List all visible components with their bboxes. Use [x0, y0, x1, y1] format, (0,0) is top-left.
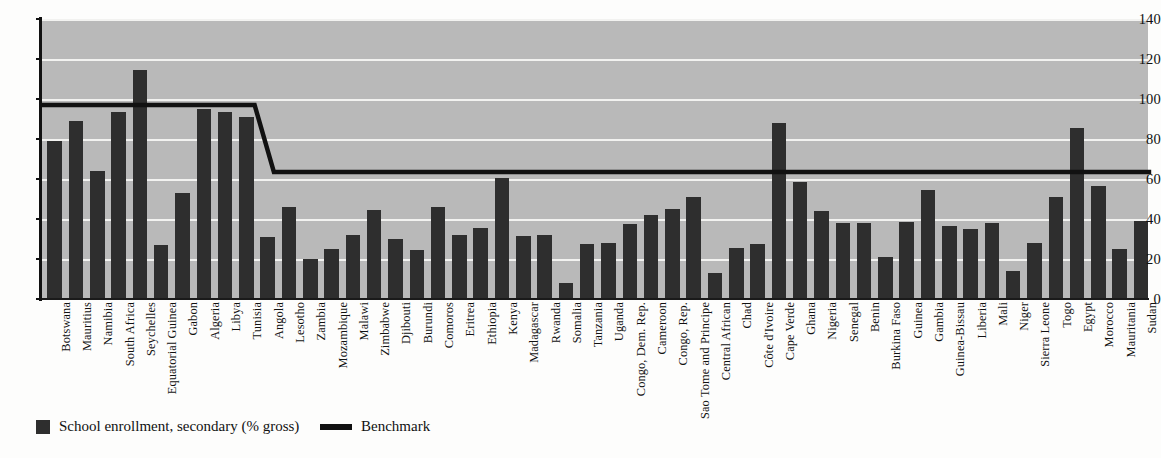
chart-legend: School enrollment, secondary (% gross) B… — [0, 414, 1161, 444]
x-tick-label: Ethiopia — [486, 302, 498, 345]
x-tick-label: Gambia — [933, 302, 945, 342]
x-tick-label: Libya — [230, 302, 242, 331]
x-tick-label: Kenya — [507, 302, 519, 335]
x-tick-label: Niger — [1018, 302, 1030, 331]
x-tick-label: Namibia — [102, 302, 114, 345]
y-tick-label: 140 — [1127, 12, 1161, 27]
y-tick-mark — [36, 98, 42, 100]
y-tick-label: 60 — [1127, 172, 1161, 187]
y-tick-mark — [36, 218, 42, 220]
x-tick-label: Senegal — [848, 302, 860, 342]
legend-item-series: School enrollment, secondary (% gross) — [36, 419, 299, 434]
x-tick-label: Guinea — [912, 302, 924, 338]
legend-line-swatch-icon — [320, 424, 352, 430]
x-axis-labels: BotswanaMauritiusNamibiaSouth AfricaSeyc… — [41, 302, 1148, 407]
x-tick-label: Cape Verde — [784, 302, 796, 360]
x-tick-label: Côte d'Ivoire — [763, 302, 775, 368]
x-tick-label: Gabon — [187, 302, 199, 336]
y-tick-mark — [36, 18, 42, 20]
x-tick-label: Algeria — [209, 302, 221, 340]
x-tick-label: Burundi — [422, 302, 434, 343]
x-tick-label: Sierra Leone — [1039, 302, 1051, 367]
x-tick-label: Congo, Rep. — [677, 302, 689, 365]
x-tick-label: Central African — [720, 302, 732, 380]
y-tick-label: 120 — [1127, 52, 1161, 67]
legend-label-benchmark: Benchmark — [361, 419, 430, 434]
y-tick-mark — [36, 138, 42, 140]
x-tick-label: Egypt — [1082, 302, 1094, 332]
x-tick-label: Mauritania — [1125, 302, 1137, 357]
y-tick-label: 20 — [1127, 252, 1161, 267]
x-tick-label: Chad — [741, 302, 753, 329]
x-tick-label: Mali — [997, 302, 1009, 326]
benchmark-polyline — [41, 105, 1151, 172]
x-tick-label: Equatorial Guinea — [166, 302, 178, 394]
x-tick-label: Benin — [869, 302, 881, 332]
x-axis-line — [39, 298, 1149, 300]
legend-label-enrollment: School enrollment, secondary (% gross) — [59, 419, 299, 434]
x-tick-label: Burkina Faso — [890, 302, 902, 370]
benchmark-line — [41, 19, 1148, 299]
x-tick-label: Zimbabwe — [379, 302, 391, 356]
x-tick-label: Ghana — [805, 302, 817, 335]
x-tick-label: Zambia — [315, 302, 327, 340]
x-tick-label: Guinea-Bissau — [954, 302, 966, 376]
y-tick-mark — [36, 258, 42, 260]
x-tick-label: South Africa — [124, 302, 136, 366]
y-tick-label: 80 — [1127, 132, 1161, 147]
x-tick-label: Mauritius — [81, 302, 93, 351]
legend-item-benchmark: Benchmark — [320, 419, 430, 434]
legend-bar-swatch-icon — [36, 420, 50, 434]
x-tick-label: Comoros — [443, 302, 455, 348]
y-tick-mark — [36, 58, 42, 60]
chart-container: 140120100806040200 BotswanaMauritiusNami… — [0, 0, 1161, 458]
x-tick-label: Liberia — [976, 302, 988, 338]
y-tick-mark — [36, 178, 42, 180]
x-tick-label: Malawi — [358, 302, 370, 340]
x-tick-label: Angola — [273, 302, 285, 339]
y-tick-mark — [36, 298, 42, 300]
x-tick-label: Lesotho — [294, 302, 306, 343]
x-tick-label: Seychelles — [145, 302, 157, 356]
x-tick-label: Tunisia — [251, 302, 263, 339]
y-tick-label: 100 — [1127, 92, 1161, 107]
x-tick-label: Sao Tome and Principe — [699, 302, 711, 419]
x-tick-label: Mozambique — [337, 302, 349, 368]
x-tick-label: Uganda — [613, 302, 625, 341]
x-tick-label: Eritrea — [464, 302, 476, 336]
x-tick-label: Togo — [1061, 302, 1073, 328]
x-tick-label: Botswana — [60, 302, 72, 352]
x-tick-label: Tanzania — [592, 302, 604, 347]
x-tick-label: Rwanda — [550, 302, 562, 343]
x-tick-label: Congo, Dem. Rep. — [635, 302, 647, 396]
x-tick-label: Nigeria — [826, 302, 838, 340]
x-tick-label: Djibouti — [400, 302, 412, 344]
x-tick-label: Madagascar — [528, 302, 540, 363]
x-tick-label: Morocco — [1103, 302, 1115, 347]
x-tick-label: Sudan — [1146, 302, 1158, 333]
x-tick-label: Cameroon — [656, 302, 668, 354]
x-tick-label: Somalia — [571, 302, 583, 343]
y-tick-label: 40 — [1127, 212, 1161, 227]
